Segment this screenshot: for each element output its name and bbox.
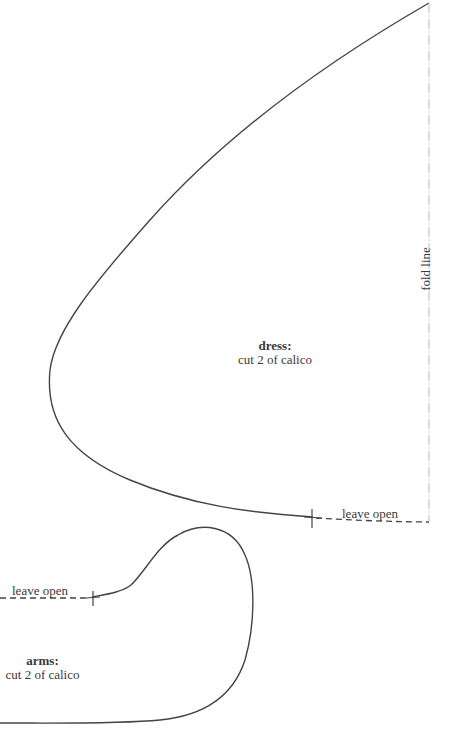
dress-label: dress: cut 2 of calico [210,339,340,367]
arms-cut-line [0,527,253,723]
arms-instruction: cut 2 of calico [0,668,95,682]
arms-notch-crossbar [86,597,100,598]
arms-title: arms: [0,654,95,668]
dress-leave-open-label: leave open [342,507,398,521]
sewing-pattern-diagram [0,0,450,741]
arms-label: arms: cut 2 of calico [0,654,95,682]
dress-instruction: cut 2 of calico [210,353,340,367]
fold-line-label: fold line [419,234,433,304]
dress-cut-line [49,3,429,517]
arms-leave-open-label: leave open [12,584,68,598]
dress-title: dress: [210,339,340,353]
